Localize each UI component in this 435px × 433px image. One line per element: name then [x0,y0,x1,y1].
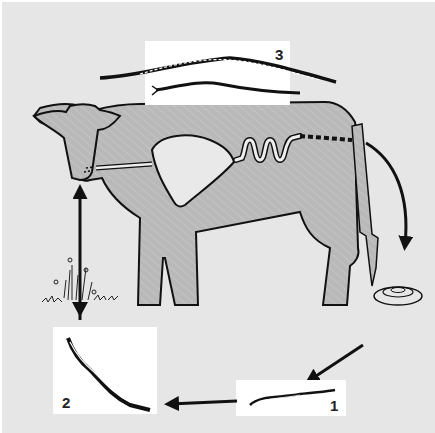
life-cycle-diagram: 3 1 2 [0,0,435,433]
stage-3-label: 3 [275,46,283,63]
stage-2-label: 2 [62,394,70,411]
dung-pat [374,287,422,305]
stage-3-panel [145,41,290,105]
diagram-canvas: 3 1 2 [0,0,435,433]
stage-1-label: 1 [330,397,338,414]
